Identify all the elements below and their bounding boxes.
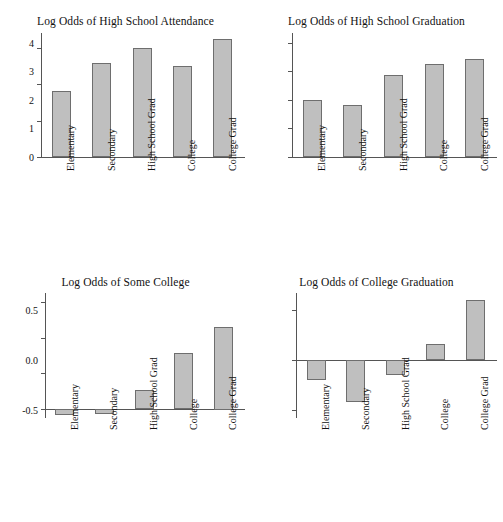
y-axis-tick-label: 0.5 — [8, 305, 38, 316]
chart-title: Log Odds of Some College — [0, 276, 251, 288]
x-axis-category-label: College Grad — [479, 376, 490, 430]
bar — [426, 344, 445, 360]
chart-title: Log Odds of High School Graduation — [251, 15, 502, 27]
x-axis-category-label: College Grad — [227, 376, 238, 430]
x-axis-category-label: College — [438, 140, 449, 171]
y-axis-tick-label: 0 — [4, 152, 34, 163]
x-axis-category-label: College — [186, 140, 197, 171]
y-axis-tick-label: 0.0 — [8, 355, 38, 366]
chart-panel-high-school-attendance: Log Odds of High School Attendance 0246E… — [0, 0, 251, 261]
y-axis-tick — [292, 310, 296, 311]
x-axis-category-label: Elementary — [69, 384, 80, 430]
x-axis-category-label: Elementary — [320, 384, 331, 430]
x-axis-category-label: Secondary — [106, 129, 117, 171]
x-axis-category-label: College — [439, 399, 450, 430]
y-axis-tick — [41, 338, 45, 339]
y-axis-tick — [288, 100, 292, 101]
y-axis-tick — [288, 128, 292, 129]
chart-title: Log Odds of College Graduation — [251, 276, 502, 288]
y-axis-tick-label: 4 — [4, 38, 34, 49]
bar — [307, 360, 326, 380]
y-axis-tick — [288, 43, 292, 44]
y-axis-line — [45, 293, 46, 418]
x-axis-category-label: Elementary — [316, 125, 327, 171]
x-axis-category-label: Elementary — [65, 125, 76, 171]
y-axis-tick — [37, 84, 41, 85]
x-axis-category-label: Secondary — [360, 388, 371, 430]
x-axis-category-label: High School Grad — [148, 357, 159, 430]
chart-title: Log Odds of High School Attendance — [0, 15, 251, 27]
x-axis-category-label: College — [188, 399, 199, 430]
y-axis-tick — [41, 302, 45, 303]
y-axis-tick — [37, 48, 41, 49]
y-axis-tick-label: 2 — [4, 95, 34, 106]
y-axis-tick-label: 1 — [4, 123, 34, 134]
multi-panel-bar-chart-figure: Log Odds of High School Attendance 0246E… — [0, 0, 503, 522]
x-axis-category-label: College Grad — [227, 117, 238, 171]
x-axis-category-label: High School Grad — [146, 98, 157, 171]
x-axis-category-label: Secondary — [357, 129, 368, 171]
chart-panel-college-graduation: Log Odds of College Graduation -0.50.00.… — [251, 261, 502, 522]
chart-panel-some-college: Log Odds of Some College 0.00.51.01.5Ele… — [0, 261, 251, 522]
y-axis-tick — [292, 410, 296, 411]
x-axis-category-label: High School Grad — [398, 98, 409, 171]
y-axis-tick — [41, 373, 45, 374]
y-axis-line — [296, 293, 297, 418]
y-axis-tick-label: -0.5 — [8, 405, 38, 416]
y-axis-line — [292, 33, 293, 157]
y-axis-tick-label: 3 — [4, 66, 34, 77]
y-axis-tick — [288, 71, 292, 72]
bar — [466, 300, 485, 360]
y-axis-tick — [37, 121, 41, 122]
y-axis-line — [41, 33, 42, 157]
x-axis-category-label: High School Grad — [400, 357, 411, 430]
x-axis-category-label: College Grad — [479, 117, 490, 171]
chart-panel-high-school-graduation: Log Odds of High School Graduation 01234… — [251, 0, 502, 261]
x-axis-category-label: Secondary — [108, 388, 119, 430]
